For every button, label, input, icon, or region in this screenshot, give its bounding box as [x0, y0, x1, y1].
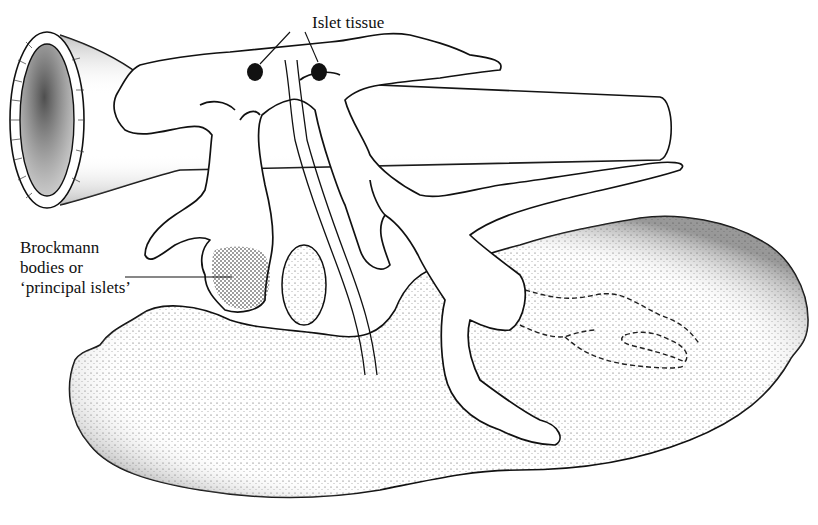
label-brockmann-line-2: bodies or [20, 258, 131, 278]
diagram-canvas: Islet tissue Brockmann bodies or ‘princi… [0, 0, 818, 525]
oval-body [282, 245, 326, 325]
label-brockmann-line-1: Brockmann [20, 238, 131, 258]
label-brockmann-bodies: Brockmann bodies or ‘principal islets’ [20, 238, 131, 298]
label-islet-tissue: Islet tissue [312, 13, 384, 33]
label-brockmann-line-3: ‘principal islets’ [20, 278, 131, 298]
